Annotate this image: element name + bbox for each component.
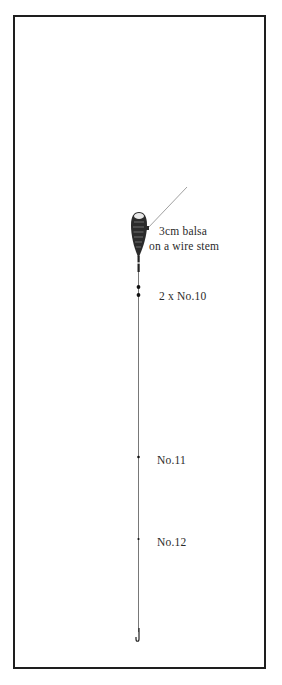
shot-label-no10: 2 x No.10 (159, 289, 206, 303)
shot-no10-b-icon (137, 293, 141, 297)
float-rig-illustration (0, 0, 282, 685)
shot-no10-a-icon (137, 285, 141, 289)
balsa-float-icon (131, 212, 149, 258)
shot-label-no11: No.11 (157, 453, 186, 467)
float-label-line1: 3cm balsa (159, 224, 207, 238)
shot-label-no12: No.12 (157, 535, 186, 549)
label-leader-line (147, 187, 187, 229)
hook-icon (136, 628, 139, 641)
shot-no12-icon (137, 538, 139, 540)
shot-no11-icon (137, 456, 140, 459)
float-label-line2: on a wire stem (149, 239, 219, 253)
